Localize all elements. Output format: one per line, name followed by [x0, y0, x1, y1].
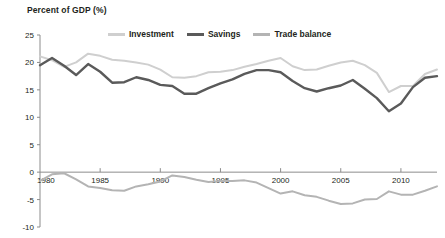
y-axis-tick-label: 25	[25, 31, 34, 40]
y-axis: 2520151050-5-10	[22, 31, 40, 232]
x-axis-tick-label: 1985	[91, 176, 109, 185]
y-axis-tick-label: 20	[25, 58, 34, 67]
x-axis-tick-label: 2010	[392, 176, 410, 185]
y-axis-tick-label: 0	[30, 168, 35, 177]
y-axis-tick-label: 10	[25, 113, 34, 122]
y-axis-tick-label: -10	[22, 223, 34, 232]
series-line-savings	[40, 58, 437, 111]
x-axis-tick-label: 2005	[332, 176, 350, 185]
y-axis-tick-label: 5	[30, 141, 35, 150]
x-axis: 1980198519901995200020052010	[37, 168, 437, 185]
x-axis-tick-label: 2000	[272, 176, 290, 185]
chart-container: Percent of GDP (%) Investment Savings Tr…	[0, 0, 445, 238]
y-axis-tick-label: 15	[25, 86, 34, 95]
series-line-investment	[40, 54, 437, 92]
chart-plot-area: 2520151050-5-10 198019851990199520002005…	[0, 0, 445, 238]
y-axis-tick-label: -5	[27, 196, 35, 205]
